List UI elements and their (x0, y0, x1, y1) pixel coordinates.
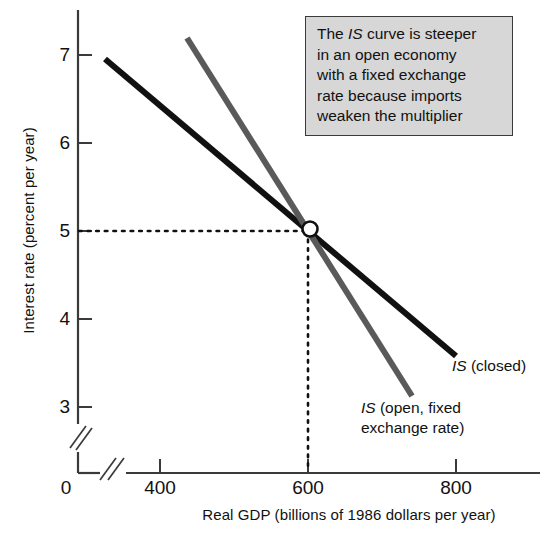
y-tick-label-7: 7 (44, 44, 70, 66)
annotation-line-1-pre: The (317, 25, 348, 42)
equilibrium-point-marker (303, 222, 318, 237)
annotation-line-1-post: curve is steeper (363, 25, 477, 42)
is-open-label-rest: (open, fixed (376, 399, 461, 416)
annotation-line-1: The IS curve is steeper (317, 24, 503, 45)
is-open-fixed-curve-label: IS (open, fixed exchange rate) (361, 398, 511, 438)
y-axis-title: Interest rate (percent per year) (20, 81, 37, 381)
y-axis-break-icon (70, 426, 92, 450)
is-closed-label-italic: IS (452, 357, 467, 374)
x-axis-break-icon (100, 458, 124, 480)
is-closed-curve-label: IS (closed) (452, 356, 526, 376)
y-tick-label-4: 4 (44, 308, 70, 330)
economics-is-curve-figure: 7 6 5 4 3 0 400 600 800 Interest rate (p… (0, 0, 548, 537)
y-tick-label-5: 5 (44, 220, 70, 242)
annotation-line-2: in an open economy (317, 45, 503, 66)
x-tick-label-400: 400 (130, 477, 190, 499)
annotation-line-5: weaken the multiplier (317, 106, 503, 127)
annotation-line-4: rate because imports (317, 86, 503, 107)
y-tick-label-3: 3 (44, 396, 70, 418)
is-closed-label-rest: (closed) (467, 357, 526, 374)
is-open-label-italic: IS (361, 399, 376, 416)
is-open-label-line2: exchange rate) (361, 419, 464, 436)
annotation-line-3: with a fixed exchange (317, 65, 503, 86)
x-axis-title: Real GDP (billions of 1986 dollars per y… (150, 506, 548, 523)
origin-label-zero: 0 (36, 477, 96, 499)
annotation-textbox: The IS curve is steeper in an open econo… (305, 16, 513, 136)
y-tick-label-6: 6 (44, 132, 70, 154)
annotation-is-emphasis: IS (348, 25, 363, 42)
x-tick-label-600: 600 (278, 477, 338, 499)
x-tick-label-800: 800 (426, 477, 486, 499)
